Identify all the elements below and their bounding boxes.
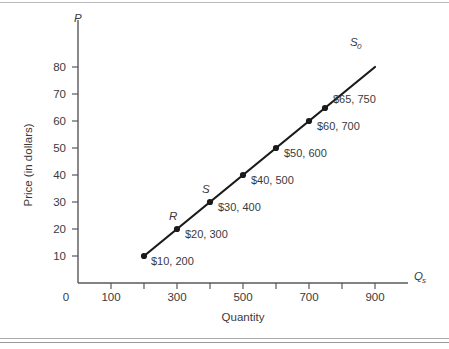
bottom-divider-1 — [0, 338, 449, 339]
y-tick-label-60: 60 — [53, 115, 66, 127]
x-axis-ticks — [111, 283, 375, 289]
point-letter-r: R — [169, 210, 177, 222]
data-point-label-7: $65, 750 — [333, 93, 376, 105]
data-point-label-2: $20, 300 — [185, 228, 228, 240]
curve-label-group: S 0 — [350, 36, 362, 51]
point-letter-s: S — [202, 183, 210, 195]
y-axis-symbol: P — [74, 12, 82, 24]
bottom-divider-2 — [0, 342, 449, 343]
supply-curve-plot: 10 20 30 40 50 60 70 80 0 100 300 500 70… — [0, 0, 449, 349]
x-axis-symbol-subscript: s — [422, 276, 426, 285]
data-point-label-1: $10, 200 — [151, 255, 194, 267]
x-axis-symbol-group: Q s — [414, 270, 426, 285]
origin-label: 0 — [63, 291, 69, 303]
x-tick-label-700: 700 — [299, 291, 318, 303]
data-point-label-6: $60, 700 — [317, 120, 360, 132]
curve-label-s-subscript: 0 — [357, 42, 362, 51]
data-point-label-3: $30, 400 — [218, 201, 261, 213]
y-tick-label-30: 30 — [53, 196, 66, 208]
data-point-6 — [306, 118, 312, 124]
x-tick-label-900: 900 — [365, 291, 384, 303]
y-tick-label-40: 40 — [53, 169, 66, 181]
y-axis-ticks — [72, 67, 78, 256]
x-axis-title: Quantity — [222, 311, 265, 323]
y-axis-title: Price (in dollars) — [22, 123, 34, 206]
y-tick-label-50: 50 — [53, 142, 66, 154]
data-point-3 — [207, 199, 213, 205]
data-point-label-4: $40, 500 — [251, 174, 294, 186]
supply-curve-figure: 10 20 30 40 50 60 70 80 0 100 300 500 70… — [0, 0, 449, 349]
data-point-label-5: $50, 600 — [284, 147, 327, 159]
y-tick-label-20: 20 — [53, 223, 66, 235]
data-point-4 — [240, 172, 246, 178]
x-tick-label-100: 100 — [101, 291, 120, 303]
x-tick-label-500: 500 — [233, 291, 252, 303]
y-tick-label-70: 70 — [53, 88, 66, 100]
data-point-7 — [322, 105, 328, 111]
y-tick-label-10: 10 — [53, 250, 66, 262]
data-point-1 — [141, 253, 147, 259]
y-tick-label-80: 80 — [53, 61, 66, 73]
x-tick-label-300: 300 — [167, 291, 186, 303]
data-point-5 — [273, 145, 279, 151]
data-point-2 — [174, 226, 180, 232]
